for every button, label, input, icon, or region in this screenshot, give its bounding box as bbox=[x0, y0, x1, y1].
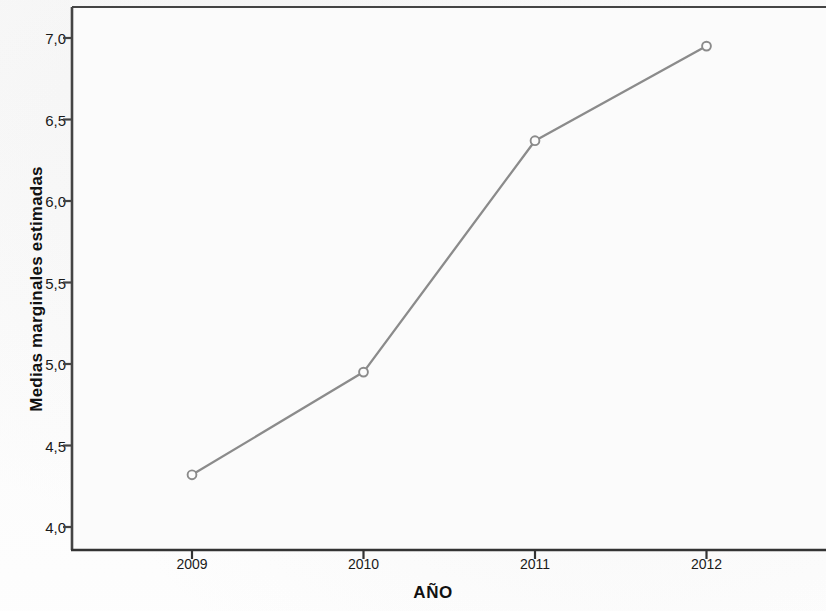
plot-background bbox=[72, 7, 826, 550]
line-chart-figure: Medias marginales estimadas 4,04,55,05,5… bbox=[0, 0, 826, 611]
x-tick-marks bbox=[192, 550, 707, 559]
data-point-marker bbox=[531, 136, 540, 145]
plot-area bbox=[0, 0, 826, 611]
data-point-marker bbox=[359, 368, 368, 377]
data-point-marker bbox=[188, 470, 197, 479]
y-tick-marks bbox=[63, 38, 72, 527]
plot-panel bbox=[72, 7, 826, 550]
data-point-marker bbox=[702, 42, 711, 51]
